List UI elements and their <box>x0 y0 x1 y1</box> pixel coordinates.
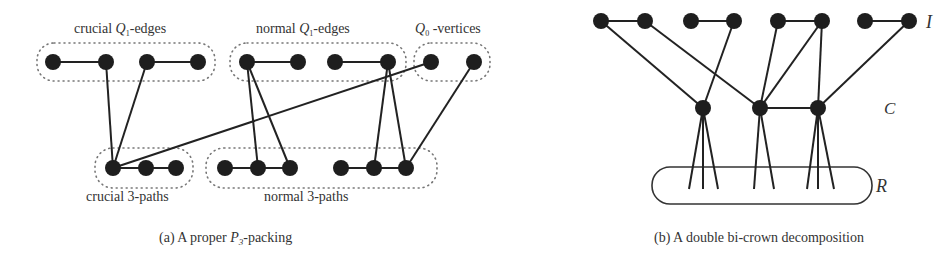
vertex <box>683 13 699 29</box>
r-set-box <box>652 167 872 204</box>
edge <box>703 21 734 108</box>
edge <box>406 62 474 168</box>
panel-a-vertices <box>45 54 482 176</box>
edge <box>113 62 147 168</box>
r-edge <box>807 108 818 189</box>
vertex <box>45 54 61 70</box>
r-edge <box>689 108 703 189</box>
edge <box>818 21 822 108</box>
caption-b: (b) A double bi-crown decomposition <box>654 230 864 246</box>
edge <box>601 21 703 108</box>
vertex <box>810 100 826 116</box>
r-edge <box>818 108 834 189</box>
vertex <box>98 54 114 70</box>
vertex <box>333 160 349 176</box>
vertex <box>290 54 306 70</box>
r-edge <box>703 108 718 189</box>
vertex <box>770 13 786 29</box>
vertex <box>380 54 396 70</box>
vertex <box>138 160 154 176</box>
vertex <box>190 54 206 70</box>
vertex <box>139 54 155 70</box>
vertex <box>105 160 121 176</box>
vertex <box>901 13 917 29</box>
r-edge <box>760 108 774 189</box>
panel-a-edges <box>53 62 474 168</box>
label-r: R <box>875 176 887 196</box>
normal-paths-label: normal 3-paths <box>264 189 348 204</box>
vertex <box>282 160 298 176</box>
vertex <box>857 13 873 29</box>
crucial-paths-label: crucial 3-paths <box>86 189 169 204</box>
crucial-q1-label: crucial Q1-edges <box>74 21 166 38</box>
label-i: I <box>925 12 933 32</box>
vertex <box>637 13 653 29</box>
edge <box>388 62 406 168</box>
vertex <box>593 13 609 29</box>
vertex <box>398 160 414 176</box>
normal-q1-label: normal Q1-edges <box>256 21 350 38</box>
vertex <box>217 160 233 176</box>
vertex <box>466 54 482 70</box>
vertex <box>327 54 343 70</box>
vertex <box>423 54 439 70</box>
edge <box>113 62 431 168</box>
r-edge <box>754 108 760 189</box>
vertex <box>366 160 382 176</box>
edge <box>106 62 113 168</box>
edge <box>645 21 760 108</box>
caption-a: (a) A proper P3-packing <box>159 230 292 247</box>
panel-b-vertices <box>593 13 917 116</box>
vertex <box>239 54 255 70</box>
vertex <box>726 13 742 29</box>
figure: crucial Q1-edges normal Q1-edges Q0 -ver… <box>0 0 945 262</box>
label-c: C <box>884 99 896 118</box>
vertex <box>752 100 768 116</box>
vertex <box>814 13 830 29</box>
vertex <box>250 160 266 176</box>
q0-label: Q0 -vertices <box>415 21 481 38</box>
vertex <box>695 100 711 116</box>
edge <box>818 21 909 108</box>
vertex <box>168 160 184 176</box>
